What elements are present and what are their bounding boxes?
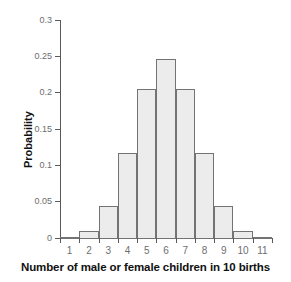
x-tick-mark bbox=[99, 238, 100, 243]
x-tick-label: 6 bbox=[156, 245, 176, 256]
x-tick-label: 10 bbox=[233, 245, 253, 256]
histogram-bar bbox=[137, 89, 156, 239]
histogram-bar bbox=[156, 59, 175, 239]
y-tick-label: 0 bbox=[47, 234, 52, 243]
x-tick-mark bbox=[176, 238, 177, 243]
y-tick-label: 0.05 bbox=[34, 197, 52, 206]
y-tick-label: 0.2 bbox=[39, 88, 52, 97]
x-tick-label: 7 bbox=[175, 245, 195, 256]
x-tick-label: 4 bbox=[117, 245, 137, 256]
histogram-bar bbox=[118, 153, 137, 239]
histogram-bar bbox=[176, 89, 195, 239]
x-tick-label: 11 bbox=[252, 245, 272, 256]
histogram-bar bbox=[233, 231, 252, 239]
histogram-bar bbox=[253, 237, 272, 239]
histogram-bar bbox=[60, 237, 79, 239]
x-axis-title: Number of male or female children in 10 … bbox=[0, 261, 291, 273]
y-tick-mark bbox=[55, 56, 60, 57]
y-tick-mark bbox=[55, 201, 60, 202]
histogram-bar bbox=[195, 153, 214, 239]
y-tick-mark bbox=[55, 165, 60, 166]
x-tick-mark bbox=[253, 238, 254, 243]
x-tick-label: 8 bbox=[195, 245, 215, 256]
y-axis-line bbox=[60, 20, 61, 239]
x-tick-mark bbox=[195, 238, 196, 243]
y-tick-mark bbox=[55, 129, 60, 130]
y-tick-label: 0.25 bbox=[34, 52, 52, 61]
x-tick-label: 1 bbox=[60, 245, 80, 256]
probability-histogram-figure: 0 0.05 0.1 0.15 0.2 0.25 0.3 12345678910… bbox=[0, 0, 291, 282]
histogram-bar bbox=[79, 231, 98, 239]
x-tick-mark bbox=[79, 238, 80, 243]
x-tick-mark bbox=[137, 238, 138, 243]
x-tick-label: 9 bbox=[214, 245, 234, 256]
x-tick-label: 3 bbox=[98, 245, 118, 256]
x-tick-mark bbox=[233, 238, 234, 243]
x-tick-mark bbox=[60, 238, 61, 243]
y-tick-label: 0.15 bbox=[34, 125, 52, 134]
x-tick-label: 5 bbox=[137, 245, 157, 256]
y-axis-title: Probability bbox=[22, 111, 34, 168]
x-tick-mark bbox=[118, 238, 119, 243]
x-tick-mark bbox=[272, 238, 273, 243]
histogram-bar bbox=[99, 206, 118, 239]
x-tick-mark bbox=[156, 238, 157, 243]
y-tick-label: 0.3 bbox=[39, 16, 52, 25]
y-tick-label: 0.1 bbox=[39, 161, 52, 170]
y-tick-mark bbox=[55, 92, 60, 93]
x-tick-mark bbox=[214, 238, 215, 243]
x-tick-label: 2 bbox=[79, 245, 99, 256]
y-tick-mark bbox=[55, 20, 60, 21]
histogram-bar bbox=[214, 206, 233, 239]
